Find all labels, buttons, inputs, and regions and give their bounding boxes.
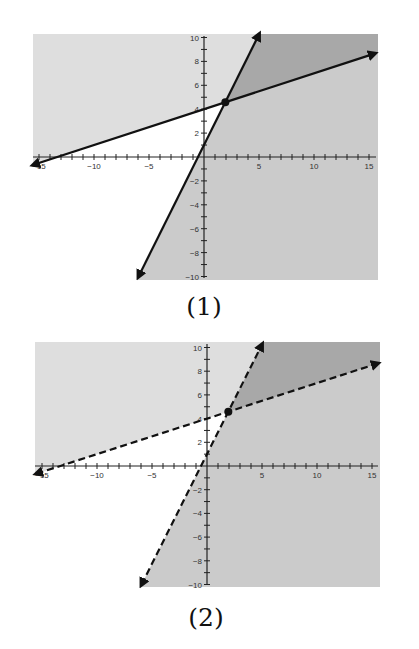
y-tick-label: −2: [190, 177, 200, 186]
y-tick-label: −6: [193, 533, 203, 542]
y-tick-label: 8: [195, 57, 200, 66]
y-tick-label: −10: [188, 581, 202, 590]
x-tick-label: 10: [313, 471, 322, 480]
x-tick-label: −5: [144, 162, 154, 171]
graph-panel-1: −15−10−551015−10−8−6−4−2246810 (1): [0, 0, 419, 325]
graph-panel-2: −15−10−551015−10−8−6−4−2246810 (2): [0, 325, 419, 649]
y-tick-label: −10: [185, 273, 199, 282]
y-tick-label: 6: [198, 391, 203, 400]
graph-1-caption: (1): [174, 292, 234, 321]
x-tick-label: 15: [368, 471, 377, 480]
y-tick-label: 8: [198, 367, 203, 376]
y-tick-label: 2: [195, 129, 200, 138]
intersection-point: [221, 98, 229, 106]
x-tick-label: 15: [365, 162, 374, 171]
x-tick-label: −5: [147, 471, 157, 480]
y-tick-label: −4: [190, 201, 200, 210]
y-tick-label: −6: [190, 225, 200, 234]
x-tick-label: 5: [260, 471, 265, 480]
y-tick-label: −8: [190, 249, 200, 258]
intersection-point: [224, 408, 232, 416]
x-tick-label: −10: [87, 162, 101, 171]
y-tick-label: −2: [193, 486, 203, 495]
graph-2-caption: (2): [176, 603, 236, 632]
graph-2-plot: −15−10−551015−10−8−6−4−2246810: [0, 325, 419, 649]
y-tick-label: −4: [193, 509, 203, 518]
graph-1-plot: −15−10−551015−10−8−6−4−2246810: [0, 0, 419, 325]
x-tick-label: 10: [310, 162, 319, 171]
x-tick-label: −10: [90, 471, 104, 480]
y-tick-label: 10: [193, 344, 202, 353]
y-tick-label: 6: [195, 81, 200, 90]
x-tick-label: 5: [257, 162, 262, 171]
y-tick-label: −8: [193, 557, 203, 566]
y-tick-label: 10: [190, 34, 199, 43]
y-tick-label: 2: [198, 438, 203, 447]
